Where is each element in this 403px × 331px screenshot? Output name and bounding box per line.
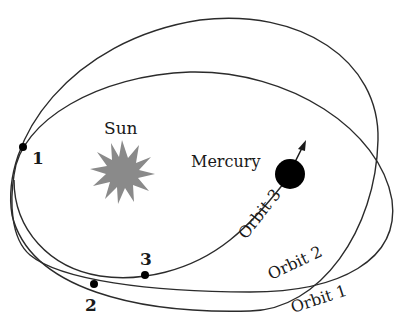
point-2-label: 2 — [85, 295, 97, 315]
orbit-2-path — [12, 72, 393, 292]
sun-icon — [90, 140, 155, 204]
point-2-marker — [90, 280, 98, 288]
orbit-diagram: Sun Mercury 1 2 3 Orbit 3 Orbit 2 Orbit … — [0, 0, 403, 331]
point-3-label: 3 — [140, 249, 152, 269]
sun-label: Sun — [104, 118, 138, 138]
orbit-1-label: Orbit 1 — [288, 281, 349, 317]
point-1-label: 1 — [32, 148, 44, 168]
orbit-3-label: Orbit 3 — [234, 185, 285, 242]
point-1-marker — [19, 143, 27, 151]
orbit-2-label: Orbit 2 — [265, 242, 325, 284]
point-3-marker — [141, 271, 149, 279]
arrow-head-icon — [298, 140, 306, 151]
mercury-planet — [275, 159, 305, 189]
mercury-label: Mercury — [191, 152, 260, 171]
